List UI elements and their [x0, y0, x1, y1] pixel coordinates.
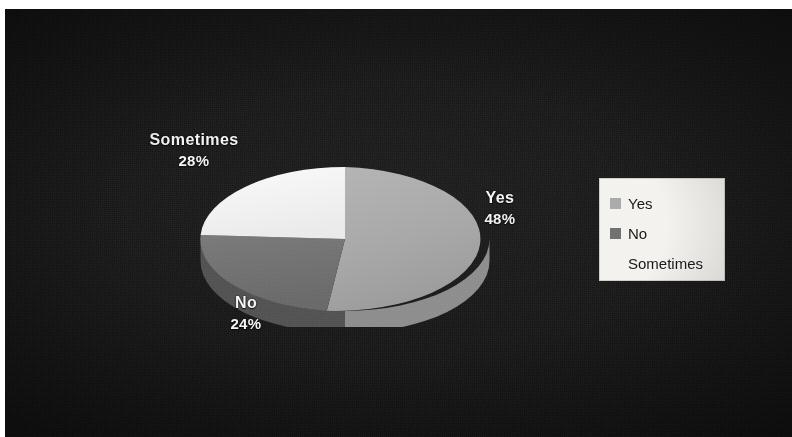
screenshot-root: Sometimes 28% Yes 48% No 24% Yes No Some… — [0, 0, 792, 437]
pie-label-sometimes-name: Sometimes — [150, 131, 239, 148]
pie-label-no-name: No — [235, 294, 257, 311]
chart-photo-plate: Sometimes 28% Yes 48% No 24% Yes No Some… — [5, 9, 792, 437]
legend-swatch-no-icon — [610, 228, 621, 239]
legend-item-no[interactable]: No — [610, 218, 724, 248]
legend-swatch-sometimes-icon — [610, 258, 621, 269]
pie-slice-top-sometimes — [201, 167, 345, 239]
legend-label-sometimes: Sometimes — [628, 256, 703, 271]
pie-label-no: No 24% — [206, 292, 286, 334]
legend-item-yes[interactable]: Yes — [610, 188, 724, 218]
legend-item-sometimes[interactable]: Sometimes — [610, 248, 724, 278]
legend-label-yes: Yes — [628, 196, 652, 211]
legend-label-no: No — [628, 226, 647, 241]
pie-label-yes-name: Yes — [486, 189, 515, 206]
pie-label-sometimes: Sometimes 28% — [124, 129, 264, 171]
pie-label-no-percent: 24% — [206, 314, 286, 334]
pie-label-yes-percent: 48% — [460, 209, 540, 229]
pie-label-yes: Yes 48% — [460, 187, 540, 229]
chart-legend: Yes No Sometimes — [599, 178, 725, 281]
legend-swatch-yes-icon — [610, 198, 621, 209]
pie-label-sometimes-percent: 28% — [124, 151, 264, 171]
